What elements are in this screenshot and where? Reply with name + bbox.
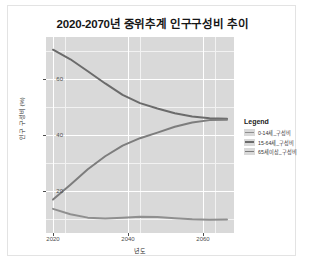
y-tick-label-20: 20: [23, 188, 63, 194]
legend-key-icon: [244, 129, 255, 136]
x-tick-label-2020: 2020: [33, 236, 73, 242]
y-tick-label-60: 60: [23, 76, 63, 82]
x-axis-title: 년도: [46, 246, 234, 255]
x-tick-label-2040: 2040: [108, 236, 148, 242]
x-tick-label-2060: 2060: [183, 236, 223, 242]
plot-panel: [46, 37, 234, 233]
y-tick-label-40: 40: [23, 132, 63, 138]
line-series-1: [53, 50, 227, 119]
legend-label-2: 65세이상_구성비: [258, 148, 297, 155]
legend: Legend 0-14세_구성비 15-64세_구성비 65세이상_구성비: [244, 118, 300, 158]
legend-item-2[interactable]: 65세이상_구성비: [244, 148, 300, 155]
legend-key-icon: [244, 148, 255, 155]
legend-key-icon: [244, 139, 255, 146]
legend-label-1: 15-64세_구성비: [258, 139, 294, 146]
legend-title: Legend: [244, 118, 300, 125]
legend-item-0[interactable]: 0-14세_구성비: [244, 129, 300, 136]
legend-item-1[interactable]: 15-64세_구성비: [244, 139, 300, 146]
chart-card: 2020-2070년 중위추계 인구구성비 추이 60 40 20 인구 구성비…: [7, 5, 296, 256]
series-lines: [46, 37, 234, 233]
line-series-2: [53, 120, 227, 200]
chart-title: 2020-2070년 중위추계 인구구성비 추이: [8, 15, 297, 31]
y-axis-title: 인구 구성비 (%): [17, 84, 26, 154]
line-series-0: [53, 209, 227, 220]
legend-label-0: 0-14세_구성비: [258, 129, 291, 136]
